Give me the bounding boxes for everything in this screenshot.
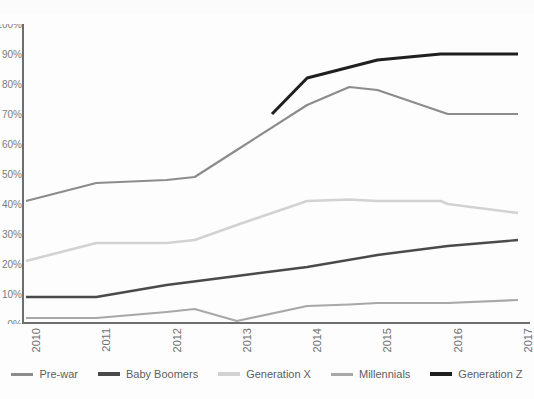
paper-background <box>0 0 534 14</box>
y-tick-label: 80% <box>2 79 22 90</box>
x-tick-label: 2012 <box>171 328 183 352</box>
legend-label: Pre-war <box>39 368 78 380</box>
series-line-millennials <box>26 300 518 321</box>
x-tick-label: 2017 <box>522 328 534 352</box>
y-tick-label: 70% <box>2 109 22 120</box>
y-tick-label: 0% <box>8 319 22 325</box>
series-lines <box>22 24 530 324</box>
x-tick-label: 2015 <box>381 328 393 352</box>
legend-swatch-icon <box>430 372 452 376</box>
legend-label: Millennials <box>359 368 410 380</box>
x-tick-label: 2011 <box>100 328 112 352</box>
legend-item[interactable]: Baby Boomers <box>98 368 198 380</box>
chart-legend: Pre-warBaby BoomersGeneration XMillennia… <box>0 364 534 384</box>
y-axis-tick-labels: 100%90%80%70%60%50%40%30%20%10%0% <box>0 24 24 324</box>
legend-swatch-icon <box>98 372 120 376</box>
y-tick-label: 20% <box>2 259 22 270</box>
x-tick-label: 2013 <box>241 328 253 352</box>
y-tick-label: 30% <box>2 229 22 240</box>
legend-item[interactable]: Generation Z <box>430 368 522 380</box>
y-tick-label: 10% <box>2 289 22 300</box>
x-axis-tick-labels: 20102011201220132014201520162017 <box>22 326 530 366</box>
legend-item[interactable]: Millennials <box>331 368 410 380</box>
legend-swatch-icon <box>11 373 33 376</box>
legend-label: Generation X <box>246 368 311 380</box>
series-line-generation-x <box>26 200 518 262</box>
legend-swatch-icon <box>331 373 353 376</box>
x-tick-label: 2010 <box>30 328 42 352</box>
series-line-pre-war <box>26 87 518 201</box>
legend-item[interactable]: Pre-war <box>11 368 78 380</box>
y-tick-label: 100% <box>0 24 22 30</box>
series-line-baby-boomers <box>26 240 518 297</box>
legend-swatch-icon <box>218 372 240 376</box>
y-tick-label: 40% <box>2 199 22 210</box>
x-tick-label: 2014 <box>311 328 323 352</box>
legend-item[interactable]: Generation X <box>218 368 311 380</box>
y-tick-label: 50% <box>2 169 22 180</box>
legend-label: Baby Boomers <box>126 368 198 380</box>
legend-label: Generation Z <box>458 368 522 380</box>
y-tick-label: 60% <box>2 139 22 150</box>
line-chart: 100%90%80%70%60%50%40%30%20%10%0% 201020… <box>0 0 534 399</box>
y-tick-label: 90% <box>2 49 22 60</box>
x-tick-label: 2016 <box>452 328 464 352</box>
